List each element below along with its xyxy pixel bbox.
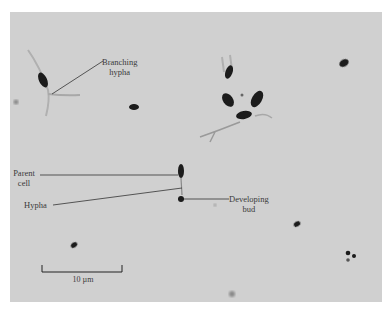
micrograph-panel: Branching hypha Parent cell Hypha Develo… <box>10 12 382 302</box>
debris-speck <box>229 291 235 297</box>
label-line: hypha <box>102 67 137 77</box>
yeast-cell <box>129 104 139 110</box>
label-line: cell <box>10 178 40 188</box>
label-line: Developing <box>229 194 269 204</box>
label-developing-bud: Developing bud <box>229 194 269 214</box>
label-hypha: Hypha <box>24 200 47 210</box>
label-line: bud <box>229 204 269 214</box>
label-line: Branching <box>102 57 137 67</box>
label-parent-cell: Parent cell <box>10 168 40 188</box>
label-line: Parent <box>10 168 40 178</box>
debris-speck <box>14 100 19 105</box>
micrograph-image <box>10 12 382 302</box>
debris-speck <box>214 204 217 207</box>
scale-bar-label: 10 µm <box>68 275 98 285</box>
label-branching-hypha: Branching hypha <box>102 57 137 77</box>
